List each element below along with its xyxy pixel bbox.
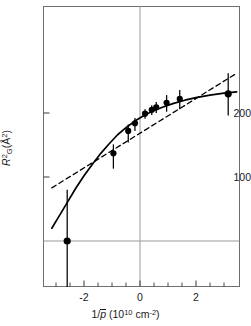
y-axis-label-sup: 2	[0, 154, 9, 158]
plot-frame	[43, 6, 240, 287]
xtick-label-2: 2	[184, 292, 208, 303]
ytick-label-200: 200	[221, 108, 251, 119]
x-axis-label-var: p	[100, 309, 106, 320]
xtick-label-minus2: -2	[72, 292, 96, 303]
x-axis-label: 1/p (1010 cm-2)	[0, 307, 251, 320]
x-axis-exponent: 10	[124, 308, 132, 317]
ytick-label-100: 100	[221, 172, 251, 183]
y-axis-label-main: R	[0, 158, 12, 166]
y-axis-unit-open: (	[0, 145, 12, 149]
y-axis-label: R2G(Å2)	[0, 118, 15, 178]
x-axis-label-num: 1/	[91, 308, 100, 320]
x-axis-paren-open: (10	[109, 308, 124, 320]
x-axis-paren-close: )	[156, 308, 160, 320]
y-axis-unit-close: )	[0, 130, 12, 134]
x-axis-unit: cm	[135, 308, 149, 320]
xtick-label-0: 0	[128, 292, 152, 303]
y-axis-unit: Å	[0, 138, 12, 145]
figure-container: 200 100 -2 0 2 R2G(Å2) 1/p (1010 cm-2)	[0, 0, 251, 326]
y-axis-label-sub: G	[5, 148, 14, 154]
y-axis-unit-sup: 2	[0, 134, 9, 138]
